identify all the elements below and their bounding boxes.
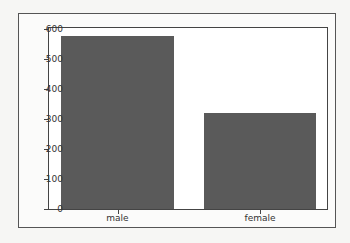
y-tick-label: 200 [46, 144, 63, 154]
y-tick-label: 0 [57, 204, 63, 214]
y-tick [44, 209, 48, 210]
y-tick-label: 100 [46, 174, 63, 184]
bar-female [204, 113, 316, 209]
y-tick-label: 500 [46, 54, 63, 64]
y-tick-label: 300 [46, 114, 63, 124]
bar-male [61, 36, 174, 209]
y-tick-label: 600 [46, 24, 63, 34]
y-tick-label: 400 [46, 84, 63, 94]
plot-area [48, 27, 328, 210]
x-label-female: female [244, 213, 275, 223]
x-label-male: male [106, 213, 128, 223]
